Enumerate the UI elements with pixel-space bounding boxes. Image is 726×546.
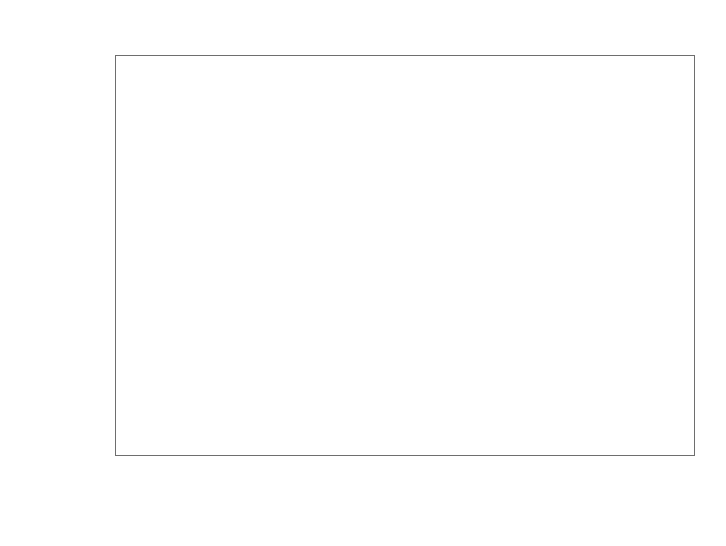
chart-canvas — [0, 0, 726, 546]
y-axis-title-wrap — [0, 0, 40, 546]
reference-line-layer — [0, 0, 726, 546]
